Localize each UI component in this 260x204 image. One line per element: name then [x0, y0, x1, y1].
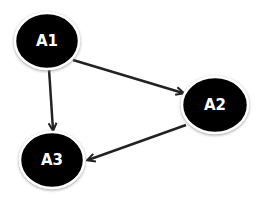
node-a1-label: A1: [36, 32, 58, 50]
edge-a1-a3: [49, 69, 53, 130]
node-a2[interactable]: A2: [182, 77, 248, 133]
edge-a2-a3: [88, 125, 186, 160]
graph-canvas: A1 A2 A3: [0, 0, 260, 204]
edge-a1-a2: [73, 60, 183, 93]
node-a3-label: A3: [41, 151, 63, 169]
node-a3[interactable]: A3: [20, 132, 84, 188]
node-a1[interactable]: A1: [15, 13, 79, 69]
node-a2-label: A2: [204, 96, 226, 114]
